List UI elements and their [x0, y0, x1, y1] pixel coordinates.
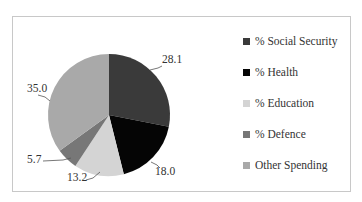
legend-label: % Defence: [255, 128, 306, 140]
legend-label: Other Spending: [255, 159, 328, 171]
legend-item-health: % Health: [243, 64, 298, 80]
data-label: 5.7: [27, 153, 42, 165]
legend-swatch-icon: [243, 131, 250, 138]
legend-swatch-icon: [243, 100, 250, 107]
legend-label: % Education: [255, 97, 314, 109]
legend-item-social-security: % Social Security: [243, 33, 337, 49]
data-label: 35.0: [27, 82, 47, 94]
legend-item-other-spending: Other Spending: [243, 157, 328, 173]
legend-label: % Social Security: [255, 35, 337, 47]
legend-swatch-icon: [243, 69, 250, 76]
data-label: 18.0: [155, 165, 175, 177]
pie-slice: [109, 54, 170, 127]
legend-item-defence: % Defence: [243, 126, 306, 142]
legend-label: % Health: [255, 66, 298, 78]
legend-swatch-icon: [243, 162, 250, 169]
leader-line: [38, 95, 50, 101]
legend-swatch-icon: [243, 38, 250, 45]
leader-line: [150, 66, 162, 70]
data-label: 28.1: [162, 53, 182, 65]
legend-item-education: % Education: [243, 95, 314, 111]
data-label: 13.2: [67, 171, 87, 183]
